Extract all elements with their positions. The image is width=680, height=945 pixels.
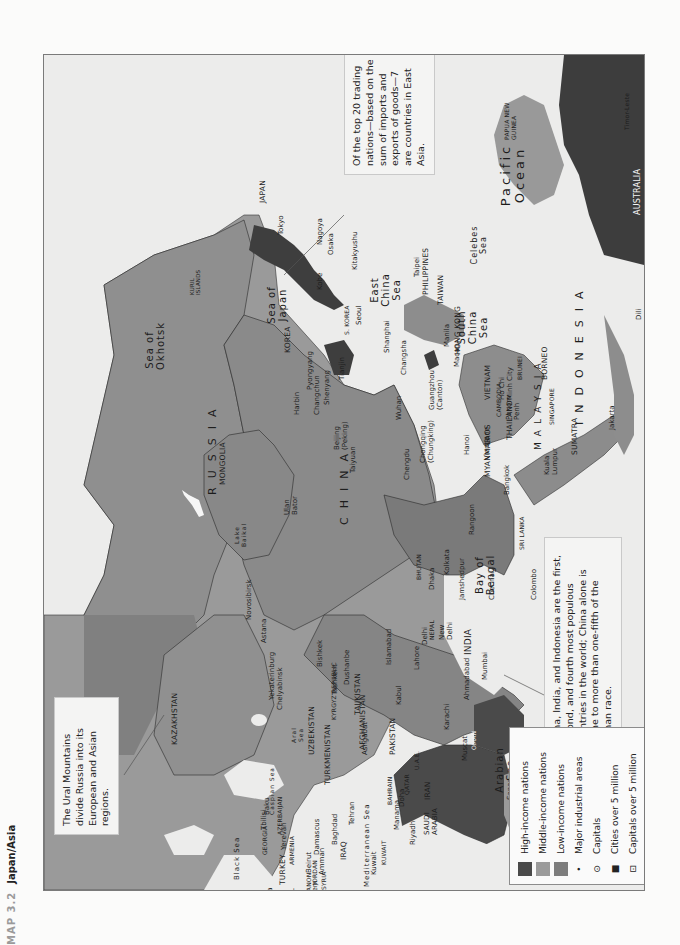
- label-oman: OMAN: [471, 731, 478, 750]
- city-karachi: Karachi: [444, 704, 452, 730]
- city-islamabad: Islamabad: [386, 629, 394, 665]
- city-astana: Astana: [261, 619, 269, 643]
- label-sea-okhotsk: Sea of Okhotsk: [144, 330, 166, 370]
- legend-item-middle-income: Middle-income nations: [534, 736, 552, 876]
- city-seoul: Seoul: [356, 306, 364, 325]
- label-bhutan: BHUTAN: [416, 554, 423, 580]
- city-colombo: Colombo: [531, 569, 539, 600]
- label-india: INDIA: [464, 629, 474, 655]
- swatch-middle-income: [536, 862, 550, 876]
- label-iraq: IRAQ: [340, 841, 348, 860]
- city-beirut: Beirut: [306, 852, 314, 873]
- city-muscat: Muscat: [462, 736, 470, 761]
- city-yerevan: Yerevan: [281, 822, 289, 850]
- city-novosibirsk: Novosibirsk: [246, 579, 254, 620]
- city-kolkata: Kolkata: [444, 549, 452, 575]
- label-papua-new-guinea: PAPUA NEW GUINEA: [504, 95, 517, 140]
- city-changsha: Changsha: [401, 340, 409, 375]
- label-georgia: GEORGIA: [262, 826, 269, 855]
- map-name: Japan/Asia: [6, 825, 17, 884]
- label-celebes-sea: Celebes Sea: [471, 225, 489, 265]
- city-ashgabat: Ashgabat: [362, 722, 370, 755]
- city-jerusalem: Jerusalem: [312, 880, 320, 891]
- label-sea-japan: Sea of Japan: [266, 285, 288, 325]
- circled-dot-icon: ⊙: [592, 862, 602, 876]
- swatch-low-income: [554, 862, 568, 876]
- city-wuhan: Wuhan: [396, 396, 404, 420]
- city-shenyang: Shenyang: [324, 370, 332, 405]
- squared-dot-icon: ⊡: [628, 862, 638, 876]
- label-kuwait: KUWAIT: [381, 840, 388, 865]
- city-lahore: Lahore: [414, 646, 422, 670]
- city-kobe: Kobe: [317, 273, 325, 290]
- label-pacific-ocean: Pacific Ocean: [499, 140, 528, 210]
- city-tehran: Tehran: [349, 802, 357, 825]
- city-baku: Baku: [264, 798, 272, 815]
- callout-population: China, India, and Indonesia are the firs…: [544, 537, 622, 755]
- label-turkmenistan: TURKMENISTAN: [324, 724, 332, 785]
- label-pakistan: PAKISTAN: [389, 718, 397, 755]
- city-ahmadabad: Ahmadabad: [464, 658, 472, 700]
- label-aral-sea: Aral Sea: [291, 725, 304, 745]
- city-bangkok: Bangkok: [504, 465, 512, 495]
- label-taiwan: TAIWAN: [437, 275, 445, 305]
- label-japan: JAPAN: [259, 180, 267, 203]
- label-australia: AUSTRALIA: [634, 169, 643, 215]
- callout-urals: The Ural Mountains divide Russia into it…: [54, 697, 119, 835]
- label-borneo: BORNEO: [541, 346, 549, 380]
- region-taiwan: [424, 350, 439, 370]
- sea-aral: [251, 714, 267, 726]
- callout-trading: Of the top 20 trading nations—based on t…: [344, 54, 435, 175]
- label-south-china-sea: South China Sea: [456, 305, 489, 350]
- map-number: MAP 3.2: [6, 892, 17, 945]
- label-nepal: NEPAL: [429, 620, 436, 640]
- city-tokyo: Tokyo: [278, 215, 286, 235]
- city-bishkek: Bishkek: [317, 640, 325, 667]
- city-baghdad: Baghdad: [332, 814, 340, 845]
- city-shanghai: Shanghai: [384, 320, 392, 353]
- city-taiyuan: Taiyuan: [350, 446, 358, 473]
- label-uzbekistan: UZBEKISTAN: [308, 706, 316, 755]
- label-timor-leste: Timor-Leste: [624, 93, 631, 130]
- label-south-korea: S. KOREA: [344, 305, 351, 335]
- city-rangoon: Rangoon: [469, 504, 477, 535]
- city-changchun: Changchun: [314, 375, 322, 415]
- city-tashkent: Tashkent: [332, 664, 340, 695]
- city-jamshedpur: Jamshedpur: [459, 558, 467, 600]
- city-kuwait: Kuwait: [371, 852, 379, 875]
- label-iran: IRAN: [424, 781, 432, 800]
- city-delhi: Delhi: [422, 627, 430, 645]
- map-canvas[interactable]: RUSSIA CHINA INDONESIA MALAYSIA KAZAKHST…: [43, 54, 645, 891]
- label-black-sea: Black Sea: [234, 837, 242, 880]
- city-dhaka: Dhaka: [429, 568, 437, 590]
- city-ulan-bator: Ulan Bator: [284, 490, 299, 515]
- city-guangzhou: Guangzhou (Canton): [429, 375, 444, 410]
- city-macao: Macao: [454, 344, 462, 367]
- label-sri-lanka: SRI LANKA: [519, 517, 526, 550]
- city-ho-chi-minh: Ho Chi Minh City: [499, 365, 514, 400]
- label-tajikistan: TAJIKISTAN: [354, 673, 362, 715]
- city-kitakyushu: Kitakyushu: [352, 232, 360, 270]
- city-chongqing: Chongqing (Chungking): [420, 423, 435, 463]
- label-brunei: BRUNEI: [517, 356, 524, 380]
- label-kuril-islands: KURIL ISLANDS: [189, 265, 201, 295]
- city-jakarta: Jakarta: [609, 406, 617, 431]
- map-title: MAP 3.2Japan/Asia: [6, 825, 17, 945]
- label-vietnam: VIETNAM: [484, 365, 492, 400]
- city-ankara: Ankara: [267, 887, 275, 891]
- city-riyadh: Riyadh: [410, 821, 418, 845]
- region-australia: [559, 55, 644, 265]
- city-kabul: Kabul: [396, 685, 404, 705]
- legend-item-low-income: Low-income nations: [552, 736, 570, 876]
- label-israel: ISRAEL: [289, 888, 296, 891]
- city-amman: Amman: [319, 848, 327, 875]
- label-indonesia: INDONESIA: [574, 282, 586, 425]
- legend: High-income nations Middle-income nation…: [509, 727, 645, 885]
- city-beijing: Beijing (Peking): [334, 420, 349, 450]
- city-kuala-lumpur: Kuala Lumpur: [544, 445, 559, 475]
- city-harbin: Harbin: [294, 392, 302, 415]
- label-philippines: PHILIPPINES: [422, 248, 430, 295]
- black-square-icon: ■: [610, 862, 620, 876]
- city-chennai: Chennai: [489, 571, 497, 600]
- legend-item-industrial: • Major industrial areas: [570, 736, 588, 876]
